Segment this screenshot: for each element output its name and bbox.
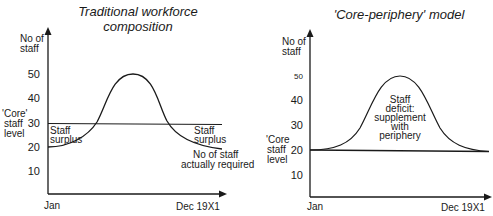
y-tick-50: 50 bbox=[28, 68, 40, 80]
staff-surplus-left-line2: surplus bbox=[50, 134, 82, 145]
y-axis-label-line2: staff bbox=[20, 43, 39, 54]
y-tick-40: 40 bbox=[291, 94, 303, 106]
core-label-line3: level bbox=[267, 154, 288, 165]
y-tick-40: 40 bbox=[28, 92, 40, 104]
y-axis-arrow-icon bbox=[45, 27, 52, 35]
y-axis-arrow-icon bbox=[307, 29, 314, 37]
x-label-end: Dec 19X1 bbox=[176, 201, 220, 212]
y-tick-20: 20 bbox=[28, 141, 40, 153]
required-label-line2: actually required bbox=[181, 159, 254, 170]
y-tick-10: 10 bbox=[291, 169, 303, 181]
x-label-start: Jan bbox=[44, 200, 60, 211]
chart-title-line2: composition bbox=[103, 19, 172, 34]
x-label-end: Dec 19X1 bbox=[441, 202, 485, 213]
y-tick-30: 30 bbox=[291, 119, 303, 131]
x-axis-arrow-icon bbox=[219, 191, 227, 198]
y-tick-30: 30 bbox=[28, 117, 40, 129]
x-label-start: Jan bbox=[307, 201, 323, 212]
diagram: Traditional workforce composition No of … bbox=[0, 0, 493, 216]
core-staff-line bbox=[310, 150, 489, 152]
y-axis-label-line2: staff bbox=[282, 46, 301, 57]
traditional-workforce-chart: Traditional workforce composition No of … bbox=[2, 4, 254, 212]
y-tick-10: 10 bbox=[28, 165, 40, 177]
x-axis-arrow-icon bbox=[484, 194, 492, 201]
deficit-line5: periphery bbox=[379, 130, 421, 141]
core-periphery-chart: 'Core-periphery' model No of staff 50 40… bbox=[266, 7, 492, 213]
staff-surplus-right-line2: surplus bbox=[194, 134, 226, 145]
y-tick-20: 20 bbox=[291, 144, 303, 156]
y-tick-50: 50 bbox=[294, 72, 303, 81]
core-label-line3: level bbox=[4, 128, 25, 139]
chart-title-line1: Traditional workforce bbox=[78, 4, 198, 19]
chart-title: 'Core-periphery' model bbox=[334, 7, 466, 22]
